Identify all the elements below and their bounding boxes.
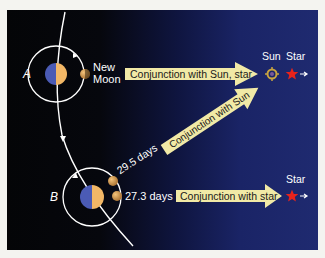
arrow-star-label: Conjunction with star	[180, 191, 277, 202]
earth-a-icon	[45, 63, 67, 85]
star-bottom-motion-arrow-icon	[300, 194, 307, 198]
moon-b-sidereal-icon	[112, 191, 122, 201]
star-top-motion-arrow-icon	[300, 72, 307, 76]
new-moon-label-line1: New	[93, 62, 115, 73]
position-a-label: A	[23, 69, 31, 80]
target-star-bottom-label: Star	[286, 174, 305, 185]
earth-b-icon	[80, 185, 104, 209]
star-bottom-icon	[286, 190, 299, 202]
star-top-icon	[286, 68, 299, 80]
arrow-sun-star-label: Conjunction with Sun, star	[130, 69, 252, 80]
new-moon-label-line2: Moon	[93, 74, 121, 85]
sidereal-period-label: 27.3 days	[125, 191, 173, 202]
diagram-panel: A New Moon Conjunction with Sun, star Su…	[7, 10, 318, 250]
orbit-direction-arrow-icon	[60, 136, 66, 142]
target-star-top-label: Star	[286, 51, 305, 62]
sun-icon	[265, 67, 279, 81]
diagram-graphics	[7, 10, 318, 250]
position-b-label: B	[50, 192, 58, 203]
moon-b-synodic-icon	[108, 176, 118, 186]
target-sun-label: Sun	[262, 51, 281, 62]
earth-orbit-path	[57, 12, 133, 246]
